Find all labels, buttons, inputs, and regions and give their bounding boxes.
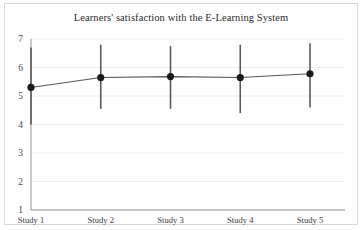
data-point-1 [27,84,34,91]
x-tick-label-2: Study 2 [87,215,114,225]
x-tick-label-1: Study 1 [18,215,45,225]
data-point-2 [97,74,104,81]
x-tick-label-4: Study 4 [227,215,254,225]
y-tick-label-1: 1 [18,205,23,215]
y-tick-label-7: 7 [18,34,23,44]
gridlines-group [31,39,345,210]
y-tick-label-3: 3 [18,148,23,158]
chart-plot-area: 1234567 Study 1Study 2Study 3Study 4Stud… [5,4,359,226]
chart-container: Learners' satisfaction with the E-Learni… [4,3,358,225]
y-tick-label-5: 5 [18,91,23,101]
x-tick-label-3: Study 3 [157,215,184,225]
x-axis-tick-labels: Study 1Study 2Study 3Study 4Study 5 [18,215,324,225]
y-tick-label-2: 2 [18,177,23,187]
y-axis-tick-labels: 1234567 [18,34,23,215]
data-point-5 [306,70,313,77]
x-tick-label-5: Study 5 [297,215,324,225]
data-point-4 [237,74,244,81]
y-tick-label-4: 4 [18,120,23,130]
error-bars-group [31,43,310,124]
y-tick-label-6: 6 [18,63,23,73]
data-point-3 [167,73,174,80]
